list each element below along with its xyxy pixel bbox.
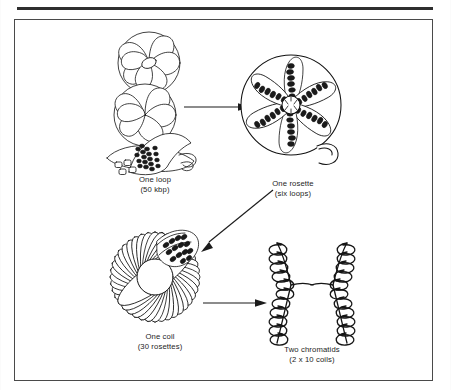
caption-two-chromatids: Two chromatids (2 x 10 coils) bbox=[249, 345, 375, 364]
caption-one-coil-line2: (30 rosettes) bbox=[105, 342, 215, 352]
caption-one-coil-line1: One coil bbox=[145, 332, 174, 341]
stage-two-chromatids: Two chromatids (2 x 10 coils) bbox=[247, 223, 377, 373]
figure-frame: One loop (50 kbp) bbox=[14, 19, 433, 381]
caption-one-rosette-line1: One rosette bbox=[272, 179, 314, 188]
scan-edge-artifact-left bbox=[0, 0, 1, 390]
top-horizontal-rule bbox=[17, 7, 433, 10]
stage-one-coil: One coil (30 rosettes) bbox=[95, 215, 225, 365]
caption-one-loop-line1: One loop bbox=[139, 175, 171, 184]
caption-one-coil: One coil (30 rosettes) bbox=[105, 332, 215, 351]
stage-one-rosette: One rosette (six loops) bbox=[233, 45, 353, 191]
caption-two-chromatids-line1: Two chromatids bbox=[284, 345, 340, 354]
caption-two-chromatids-line2: (2 x 10 coils) bbox=[249, 355, 375, 365]
chromatin-rosette-icon bbox=[233, 45, 353, 191]
